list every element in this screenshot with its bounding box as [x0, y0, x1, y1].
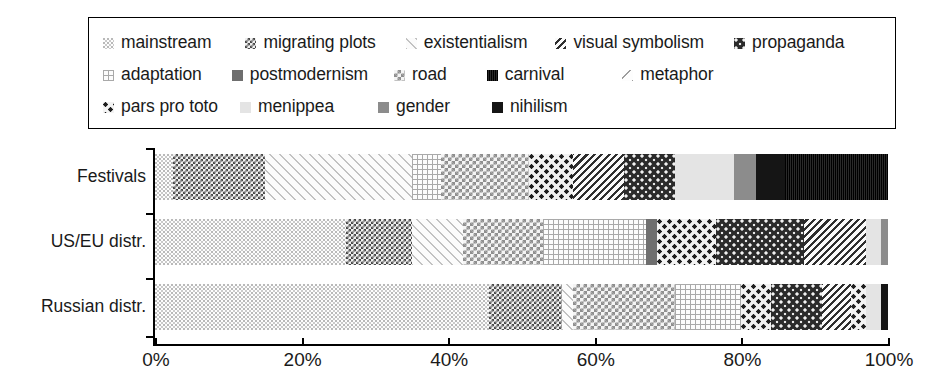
legend-swatch-icon: [394, 70, 405, 81]
bar-segment-migrating-plots: [173, 154, 265, 200]
bar-segment-road: [441, 154, 529, 200]
bar-segment-menippea: [866, 284, 881, 330]
legend-row: adaptationpostmodernismroadcarnivalmetap…: [103, 59, 881, 91]
bar-segment-existentialism: [412, 219, 463, 265]
legend-label: propaganda: [752, 34, 844, 52]
legend-label: migrating plots: [263, 34, 375, 52]
bar-segment-pars-pro-toto: [657, 219, 716, 265]
x-axis-tick: [741, 338, 743, 346]
bar-russian-distr-: [155, 284, 888, 330]
x-axis-tick: [302, 338, 304, 346]
y-axis-label-festivals: Festivals: [6, 168, 146, 186]
legend-item-mainstream[interactable]: mainstream: [103, 34, 211, 52]
legend-swatch-icon: [492, 102, 503, 113]
legend-label: road: [412, 66, 447, 84]
legend-item-menippea[interactable]: menippea: [240, 98, 334, 116]
bar-segment-mainstream: [155, 219, 346, 265]
legend-item-carnival[interactable]: carnival: [487, 66, 565, 84]
legend-label: existentialism: [424, 34, 528, 52]
bar-segment-adaptation: [412, 154, 441, 200]
legend-item-road[interactable]: road: [394, 66, 447, 84]
legend-swatch-icon: [232, 70, 243, 81]
legend-item-pars-pro-toto[interactable]: pars pro toto: [103, 98, 218, 116]
legend-item-metaphor[interactable]: metaphor: [622, 66, 713, 84]
y-axis-tick: [146, 278, 154, 280]
bar-segment-road: [463, 219, 544, 265]
legend-item-gender[interactable]: gender: [378, 98, 450, 116]
bar-segment-carnival: [785, 154, 888, 200]
legend-row: mainstreammigrating plotsexistentialismv…: [103, 27, 881, 59]
bar-segment-road: [573, 284, 676, 330]
x-axis-tick-label: 40%: [430, 350, 468, 369]
bar-segment-adaptation: [675, 284, 741, 330]
legend-label: metaphor: [640, 66, 713, 84]
chart-legend: mainstreammigrating plotsexistentialismv…: [88, 17, 896, 129]
legend-item-existentialism[interactable]: existentialism: [406, 34, 528, 52]
chart-plot-area: FestivalsUS/EU distr.Russian distr. 0%20…: [0, 140, 938, 392]
bar-segment-gender: [734, 154, 756, 200]
legend-swatch-icon: [103, 70, 114, 81]
legend-item-migrating-plots[interactable]: migrating plots: [245, 34, 375, 52]
y-axis-labels: FestivalsUS/EU distr.Russian distr.: [0, 140, 146, 352]
bar-segment-migrating-plots: [346, 219, 412, 265]
bar-segment-visual-symbolism: [573, 154, 624, 200]
bar-segment-adaptation: [543, 219, 646, 265]
bar-segment-existentialism: [562, 284, 573, 330]
bar-segment-mainstream: [155, 284, 489, 330]
bar-segment-nihilism: [881, 284, 888, 330]
x-axis-tick-label: 80%: [723, 350, 761, 369]
bar-segment-mainstream: [155, 154, 173, 200]
legend-swatch-icon: [245, 38, 256, 49]
x-axis-tick: [155, 338, 157, 346]
legend-label: visual symbolism: [573, 34, 704, 52]
legend-item-propaganda[interactable]: propaganda: [734, 34, 844, 52]
legend-label: postmodernism: [250, 66, 368, 84]
bar-us-eu-distr-: [155, 219, 888, 265]
legend-swatch-icon: [103, 38, 114, 49]
bar-festivals: [155, 154, 888, 200]
legend-label: menippea: [258, 98, 334, 116]
legend-label: adaptation: [121, 66, 202, 84]
legend-item-adaptation[interactable]: adaptation: [103, 66, 202, 84]
bar-segment-visual-symbolism: [822, 284, 851, 330]
y-axis-tick: [146, 148, 154, 150]
legend-label: gender: [396, 98, 450, 116]
legend-swatch-icon: [487, 70, 498, 81]
legend-item-postmodernism[interactable]: postmodernism: [232, 66, 368, 84]
bar-segment-postmodernism: [646, 219, 657, 265]
bar-segment-propaganda: [624, 154, 675, 200]
x-axis-tick: [888, 338, 890, 346]
legend-swatch-icon: [734, 38, 745, 49]
bar-segment-menippea: [675, 154, 734, 200]
x-axis-tick: [595, 338, 597, 346]
bar-segment-visual-symbolism: [804, 219, 866, 265]
legend-label: pars pro toto: [121, 98, 218, 116]
legend-swatch-icon: [555, 38, 566, 49]
bar-segment-existentialism: [265, 154, 412, 200]
bar-segment-propaganda: [771, 284, 822, 330]
x-axis-tick-label: 60%: [577, 350, 615, 369]
bar-segment-migrating-plots: [489, 284, 562, 330]
legend-swatch-icon: [622, 70, 633, 81]
bar-segment-menippea: [866, 219, 881, 265]
x-axis-tick-label: 20%: [284, 350, 322, 369]
x-axis-tick-label: 100%: [865, 350, 914, 369]
x-axis-tick: [448, 338, 450, 346]
legend-label: mainstream: [121, 34, 211, 52]
y-axis-label-us-eu-distr-: US/EU distr.: [6, 233, 146, 251]
x-axis-tick-label: 0%: [142, 350, 169, 369]
legend-row: pars pro totomenippeagendernihilism: [103, 91, 881, 123]
bar-segment-nihilism: [756, 154, 785, 200]
x-axis-line: [153, 344, 889, 346]
legend-label: carnival: [505, 66, 565, 84]
legend-swatch-icon: [103, 102, 114, 113]
legend-item-nihilism[interactable]: nihilism: [492, 98, 568, 116]
legend-swatch-icon: [378, 102, 389, 113]
y-axis-label-russian-distr-: Russian distr.: [6, 298, 146, 316]
legend-item-visual-symbolism[interactable]: visual symbolism: [555, 34, 704, 52]
y-axis-tick: [146, 213, 154, 215]
bar-segment-pars-pro-toto: [741, 284, 770, 330]
bar-segment-pars-pro-toto: [529, 154, 573, 200]
bar-segment-carnival: [851, 284, 866, 330]
legend-swatch-icon: [406, 38, 417, 49]
